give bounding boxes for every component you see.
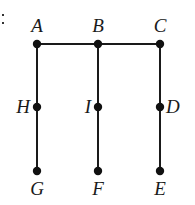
node-d [156,103,164,111]
node-label-a: A [29,15,43,36]
node-label-e: E [153,178,166,199]
node-label-c: C [154,15,167,36]
node-a [33,40,41,48]
node-b [94,40,102,48]
node-label-f: F [91,178,104,199]
node-label-b: B [92,15,104,36]
node-f [94,167,102,175]
node-label-h: H [15,96,31,117]
node-c [156,40,164,48]
node-e [156,167,164,175]
node-g [33,167,41,175]
node-label-d: D [165,96,180,117]
node-label-i: I [84,96,93,117]
node-label-g: G [30,178,44,199]
graph-diagram: ABCHIDGFE [0,0,195,205]
colon-mark [2,14,4,24]
node-i [94,103,102,111]
graph-svg: ABCHIDGFE [0,0,195,205]
node-h [33,103,41,111]
